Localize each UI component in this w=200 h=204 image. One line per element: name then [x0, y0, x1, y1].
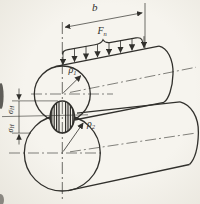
- diagram-canvas: b Fn: [0, 0, 200, 204]
- bottom-cylinder-top-generator: [77, 102, 180, 113]
- label-sigma-h-lower: σH: [6, 124, 16, 133]
- bottom-cylinder-axis-line: [70, 133, 195, 152]
- bottom-cylinder: [9, 102, 198, 191]
- label-fn: Fn: [97, 25, 107, 37]
- b-dimension-line: [65, 13, 142, 27]
- scan-smudge: [0, 83, 4, 109]
- bottom-cylinder-end-cap: [180, 102, 198, 165]
- top-cylinder-axis-line: [70, 67, 196, 92]
- scan-smudge: [0, 194, 4, 204]
- label-b: b: [92, 1, 98, 13]
- label-sigma-h-upper: σH: [6, 105, 16, 114]
- label-rho1: ρ1: [68, 64, 77, 76]
- label-rho2: ρ2: [86, 118, 96, 130]
- contact-stress-diagram: b Fn: [0, 0, 200, 204]
- rho1-radius-arrow: [63, 76, 81, 94]
- bottom-cylinder-bottom-generator: [68, 165, 190, 191]
- top-cylinder-end-cap: [159, 46, 173, 102]
